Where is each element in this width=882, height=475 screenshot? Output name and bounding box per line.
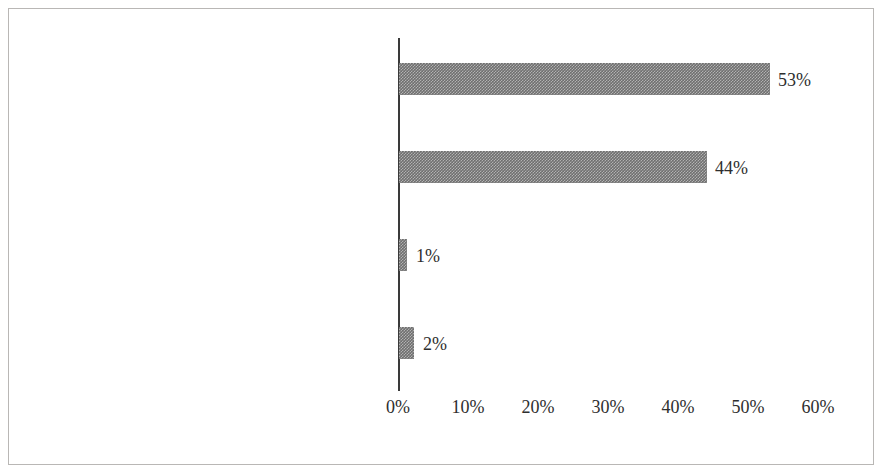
bar-protecting-democracy-and-human-rights [399, 151, 707, 183]
bar-value-label: 44% [715, 159, 748, 177]
horizontal-bar-chart: Ensuring security and fighting terrorism… [0, 0, 882, 475]
bar-ensuring-security-and-fighting-terrorism [399, 63, 770, 95]
x-axis-tick-60: 60% [783, 398, 853, 416]
x-axis-tick-30: 30% [573, 398, 643, 416]
bar-dont-know [399, 327, 414, 359]
bar-value-label: 2% [423, 335, 447, 353]
chart-page: Ensuring security and fighting terrorism… [0, 0, 882, 475]
x-axis-tick-20: 20% [503, 398, 573, 416]
x-axis-tick-0: 0% [363, 398, 433, 416]
x-axis-tick-50: 50% [713, 398, 783, 416]
x-axis-tick-labels: 0% 10% 20% 30% 40% 50% 60% [0, 398, 882, 422]
bar-value-label: 53% [778, 71, 811, 89]
x-axis-tick-40: 40% [643, 398, 713, 416]
bar-value-label: 1% [416, 247, 440, 265]
bar-agree-with-neither [399, 239, 407, 271]
x-axis-tick-10: 10% [433, 398, 503, 416]
